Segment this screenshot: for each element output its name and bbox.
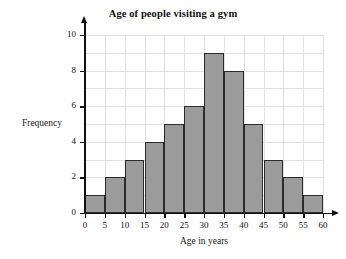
x-tick-mark bbox=[323, 213, 324, 218]
y-axis-arrow-icon bbox=[81, 16, 87, 23]
x-tick-mark bbox=[125, 213, 126, 218]
y-tick-label: 2 bbox=[50, 171, 76, 181]
y-tick-label: 8 bbox=[50, 65, 76, 75]
x-tick-mark bbox=[105, 213, 106, 218]
bar-45-50 bbox=[264, 160, 284, 213]
chart-title: Age of people visiting a gym bbox=[0, 8, 346, 19]
y-axis-title: Frequency bbox=[8, 118, 76, 128]
bar-10-15 bbox=[125, 160, 145, 213]
bar-series bbox=[85, 35, 323, 213]
x-tick-mark bbox=[184, 213, 185, 218]
bar-50-55 bbox=[283, 177, 303, 213]
bar-15-20 bbox=[145, 142, 165, 213]
x-tick-mark bbox=[244, 213, 245, 218]
x-tick-mark bbox=[164, 213, 165, 218]
bar-25-30 bbox=[184, 106, 204, 213]
x-axis-title: Age in years bbox=[85, 236, 323, 246]
x-axis-arrow-icon bbox=[332, 210, 339, 216]
y-tick-label: 6 bbox=[50, 100, 76, 110]
bar-5-10 bbox=[105, 177, 125, 213]
y-tick-mark bbox=[80, 142, 85, 143]
x-tick-mark bbox=[85, 213, 86, 218]
gridline-vertical bbox=[323, 35, 324, 213]
y-axis-line bbox=[84, 22, 86, 214]
y-tick-label: 0 bbox=[50, 207, 76, 217]
bar-55-60 bbox=[303, 195, 323, 213]
bar-30-35 bbox=[204, 53, 224, 213]
y-tick-mark bbox=[80, 177, 85, 178]
x-tick-mark bbox=[283, 213, 284, 218]
x-tick-mark bbox=[145, 213, 146, 218]
y-tick-mark bbox=[80, 35, 85, 36]
bar-0-5 bbox=[85, 195, 105, 213]
y-tick-mark bbox=[80, 106, 85, 107]
y-tick-label: 4 bbox=[50, 136, 76, 146]
bar-35-40 bbox=[224, 71, 244, 213]
y-tick-mark bbox=[80, 71, 85, 72]
x-tick-mark bbox=[224, 213, 225, 218]
plot-area bbox=[85, 35, 323, 213]
bar-20-25 bbox=[164, 124, 184, 213]
x-tick-mark bbox=[204, 213, 205, 218]
x-tick-label: 60 bbox=[311, 220, 335, 230]
bar-40-45 bbox=[244, 124, 264, 213]
x-tick-mark bbox=[264, 213, 265, 218]
histogram-figure: Age of people visiting a gym 0246810 051… bbox=[0, 0, 346, 259]
x-tick-mark bbox=[303, 213, 304, 218]
x-axis-line bbox=[84, 213, 333, 215]
y-tick-label: 10 bbox=[50, 29, 76, 39]
